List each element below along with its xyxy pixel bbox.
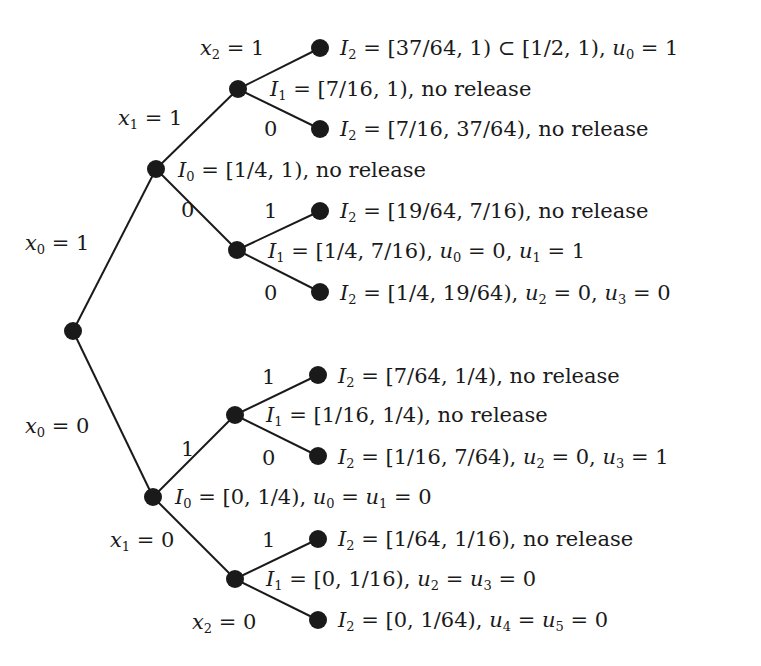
node-label-I0-top: I0 = [1/4, 1), no release	[178, 160, 426, 181]
tree-node-n110	[311, 120, 329, 138]
tree-node-n111	[311, 39, 329, 57]
tree-node-root	[64, 322, 82, 340]
edge-label-x2-0: x2 = 0	[192, 612, 256, 633]
edge-label-e110-0: 0	[264, 119, 277, 140]
node-label-I1-01: I1 = [1/16, 1/4), no release	[266, 405, 548, 426]
tree-node-n010	[309, 447, 327, 465]
node-label-I2-011: I2 = [7/64, 1/4), no release	[338, 366, 620, 387]
node-label-I2-110: I2 = [7/16, 37/64), no release	[340, 119, 648, 140]
edge-label-e010-0: 0	[262, 448, 275, 469]
tree-node-n100	[311, 283, 329, 301]
tree-node-n000	[309, 611, 327, 629]
tree-node-n011	[309, 366, 327, 384]
tree-node-n01	[226, 406, 244, 424]
tree-node-n101	[311, 202, 329, 220]
edge-label-x0-1: x0 = 1	[25, 233, 89, 254]
node-label-I1-10: I1 = [1/4, 7/16), u0 = 0, u1 = 1	[268, 241, 585, 262]
node-label-I2-000: I2 = [0, 1/64), u4 = u5 = 0	[338, 610, 608, 631]
tree-node-n001	[309, 530, 327, 548]
tree-node-n00	[226, 570, 244, 588]
node-label-I1-00: I1 = [0, 1/16), u2 = u3 = 0	[266, 569, 536, 590]
tree-node-n1	[147, 160, 165, 178]
tree-node-n11	[229, 80, 247, 98]
edge-label-e001-1: 1	[262, 530, 275, 551]
node-label-I1-11: I1 = [7/16, 1), no release	[270, 79, 531, 100]
node-label-I0-bottom: I0 = [0, 1/4), u0 = u1 = 0	[175, 487, 432, 508]
edge-label-e10-0: 0	[181, 200, 194, 221]
tree-node-n0	[144, 488, 162, 506]
node-label-I2-010: I2 = [1/16, 7/64), u2 = 0, u3 = 1	[338, 447, 669, 468]
edge-label-e01-1: 1	[181, 439, 194, 460]
edge-label-x1-1: x1 = 1	[118, 108, 182, 129]
tree-node-n10	[228, 241, 246, 259]
edge-label-x0-0: x0 = 0	[25, 416, 89, 437]
node-label-I2-101: I2 = [19/64, 7/16), no release	[340, 201, 648, 222]
node-label-I2-100: I2 = [1/4, 19/64), u2 = 0, u3 = 0	[340, 283, 671, 304]
edge-label-e101-1: 1	[264, 201, 277, 222]
edge-label-e100-0: 0	[264, 283, 277, 304]
edge-label-x2-1: x2 = 1	[200, 38, 264, 59]
edge-label-x1-0: x1 = 0	[110, 530, 174, 551]
node-label-I2-001: I2 = [1/64, 1/16), no release	[338, 529, 633, 550]
node-label-I2-111: I2 = [37/64, 1) ⊂ [1/2, 1), u0 = 1	[340, 38, 678, 59]
edge-label-e011-1: 1	[262, 367, 275, 388]
